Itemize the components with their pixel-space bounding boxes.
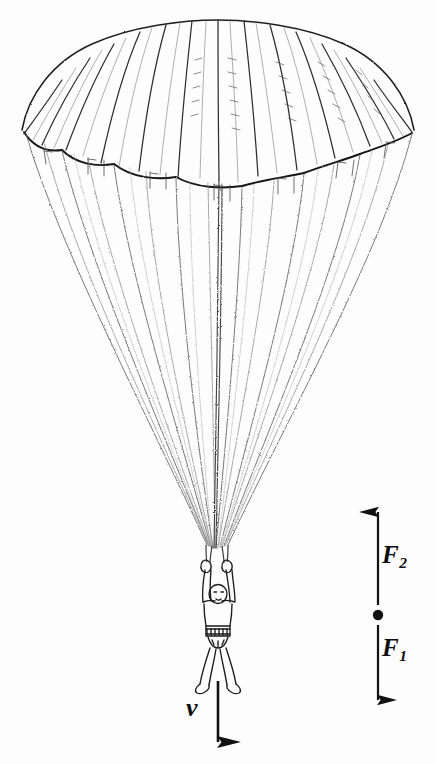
figure-page: F2 F1 v bbox=[0, 0, 436, 764]
force-label-f2-subscript: 2 bbox=[399, 554, 407, 571]
velocity-label-v-letter: v bbox=[186, 693, 198, 722]
force-label-f2: F2 bbox=[382, 542, 407, 570]
suspension-lines bbox=[26, 134, 412, 548]
force-label-f1: F1 bbox=[382, 635, 407, 663]
parachutist-diagram bbox=[0, 0, 436, 764]
force-label-f1-subscript: 1 bbox=[399, 647, 407, 664]
force-label-f1-letter: F bbox=[382, 634, 399, 661]
center-of-mass-dot bbox=[373, 610, 383, 620]
parachute-canopy bbox=[22, 20, 414, 201]
force-label-f2-letter: F bbox=[382, 541, 399, 568]
velocity-label-v: v bbox=[186, 695, 198, 721]
skydiver-figure bbox=[196, 560, 241, 693]
